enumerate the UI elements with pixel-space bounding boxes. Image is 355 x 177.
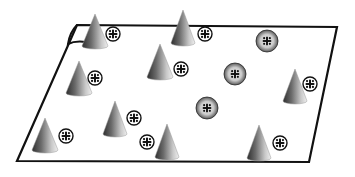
charge-dot	[183, 71, 185, 73]
plus-sign-horizontal	[62, 135, 71, 137]
charge-dot	[91, 80, 93, 82]
charge-dot	[312, 86, 314, 88]
charge-dot	[306, 80, 308, 82]
charge-dot	[130, 120, 132, 122]
plus-sign-horizontal	[143, 141, 152, 143]
charge-dot	[136, 120, 138, 122]
charge-dot	[183, 65, 185, 67]
charge-dot	[97, 74, 99, 76]
charge-dot	[201, 36, 203, 38]
charge-dot	[237, 76, 239, 78]
positive-charge-marker	[273, 136, 287, 150]
charge-dot	[207, 30, 209, 32]
plus-sign-horizontal	[130, 117, 139, 119]
charge-dot	[143, 138, 145, 140]
positive-charge-marker	[106, 27, 120, 41]
plus-sign-horizontal	[263, 40, 271, 42]
charge-dot	[237, 70, 239, 72]
diagram-svg	[0, 0, 355, 177]
charge-dot	[207, 36, 209, 38]
diagram-canvas	[0, 0, 355, 177]
charge-dot	[209, 104, 211, 106]
positive-charge-marker	[174, 62, 188, 76]
plus-sign-horizontal	[203, 107, 211, 109]
charge-dot	[149, 144, 151, 146]
charge-dot	[97, 80, 99, 82]
charge-dot	[269, 37, 271, 39]
positive-charge-marker	[59, 129, 73, 143]
charge-dot	[231, 70, 233, 72]
charge-dot	[91, 74, 93, 76]
plus-sign-horizontal	[177, 68, 186, 70]
charge-dot	[68, 132, 70, 134]
charge-dot	[201, 30, 203, 32]
charge-dot	[68, 138, 70, 140]
charge-dot	[109, 36, 111, 38]
charge-dot	[115, 30, 117, 32]
charge-dot	[130, 114, 132, 116]
plus-sign-horizontal	[201, 33, 210, 35]
charge-dot	[62, 138, 64, 140]
positive-charge-marker	[88, 71, 102, 85]
charge-dot	[136, 114, 138, 116]
positive-charge-marker	[198, 27, 212, 41]
positive-charge-marker	[127, 111, 141, 125]
charged-sphere	[196, 97, 218, 119]
charge-dot	[269, 43, 271, 45]
charged-sphere	[256, 30, 278, 52]
plus-sign-horizontal	[109, 33, 118, 35]
charge-dot	[209, 110, 211, 112]
charge-dot	[62, 132, 64, 134]
charge-dot	[276, 139, 278, 141]
charge-dot	[203, 110, 205, 112]
charge-dot	[263, 43, 265, 45]
plus-sign-horizontal	[91, 77, 100, 79]
plus-sign-horizontal	[306, 83, 315, 85]
positive-charge-marker	[140, 135, 154, 149]
charge-dot	[143, 144, 145, 146]
charge-dot	[231, 76, 233, 78]
positive-charge-marker	[303, 77, 317, 91]
charge-dot	[177, 71, 179, 73]
plus-sign-horizontal	[231, 73, 239, 75]
charge-dot	[203, 104, 205, 106]
charged-sphere	[224, 63, 246, 85]
charge-dot	[312, 80, 314, 82]
charge-dot	[149, 138, 151, 140]
charge-dot	[263, 37, 265, 39]
charge-dot	[306, 86, 308, 88]
plus-sign-horizontal	[276, 142, 285, 144]
charge-dot	[177, 65, 179, 67]
charge-dot	[282, 139, 284, 141]
charge-dot	[282, 145, 284, 147]
charge-dot	[115, 36, 117, 38]
charge-dot	[276, 145, 278, 147]
charge-dot	[109, 30, 111, 32]
